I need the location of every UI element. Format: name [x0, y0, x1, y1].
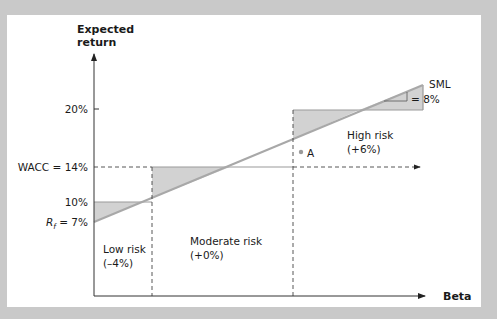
tick-label-wacc: WACC = 14%: [18, 161, 88, 173]
tick-label-rf: Rf = 7%: [46, 216, 88, 231]
y-axis-title-line2: return: [77, 36, 116, 49]
sml-label: SML: [429, 78, 451, 90]
low-risk-label: Low risk: [103, 243, 147, 255]
sml-chart: Expected return Beta 20% WACC = 14% 10% …: [0, 0, 497, 319]
high-risk-adjustment: (+6%): [347, 143, 381, 155]
x-axis-title: Beta: [443, 290, 472, 303]
point-a-marker: [299, 150, 303, 154]
moderate-risk-label: Moderate risk: [190, 235, 263, 247]
moderate-risk-adjustment: (+0%): [190, 249, 224, 261]
low-risk-adjustment: (–4%): [103, 257, 133, 269]
tick-label-20: 20%: [65, 103, 88, 115]
high-risk-label: High risk: [347, 129, 394, 141]
tick-label-10: 10%: [65, 196, 88, 208]
slope-label: = 8%: [411, 93, 440, 105]
y-axis-title-line1: Expected: [77, 23, 134, 36]
point-a-label: A: [307, 147, 315, 159]
